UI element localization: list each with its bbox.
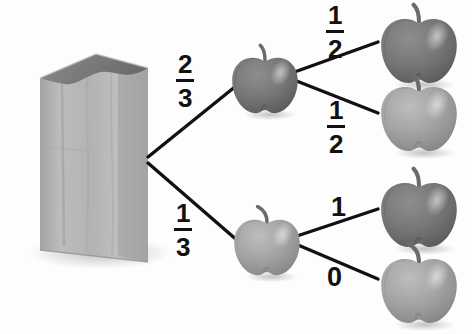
apple-node-green-level1 (234, 207, 300, 283)
probability-label-1-2-lower: 1 2 (327, 97, 345, 157)
probability-label-2-3: 2 3 (176, 51, 194, 111)
fraction-bar (327, 125, 345, 128)
probability-label-1-2-upper: 1 2 (326, 2, 344, 62)
fraction-numerator: 1 (174, 200, 192, 227)
fraction-denominator: 3 (176, 84, 194, 111)
probability-label-zero: 0 (327, 264, 342, 291)
branch-line-1-3 (148, 163, 238, 241)
fraction-denominator: 2 (326, 35, 344, 62)
apple-node-red-lower (381, 169, 457, 255)
fraction-bar (174, 228, 192, 231)
fraction-denominator: 3 (174, 233, 192, 260)
fraction-denominator: 2 (327, 130, 345, 157)
probability-tree-diagram: 2 3 1 3 1 2 1 2 1 0 (0, 0, 472, 334)
fraction-bar (176, 79, 194, 82)
probability-label-one: 1 (331, 194, 346, 221)
apple-node-red-level1 (232, 45, 298, 120)
tree-canvas (0, 0, 472, 334)
probability-label-1-3: 1 3 (174, 200, 192, 260)
fraction-bar (326, 30, 344, 33)
fraction-numerator: 1 (326, 2, 344, 29)
fraction-numerator: 1 (327, 97, 345, 124)
fraction-numerator: 2 (176, 51, 194, 78)
paper-bag (28, 54, 172, 269)
apple-node-green-bottom (381, 244, 457, 331)
apple-node-red-top (381, 5, 457, 91)
